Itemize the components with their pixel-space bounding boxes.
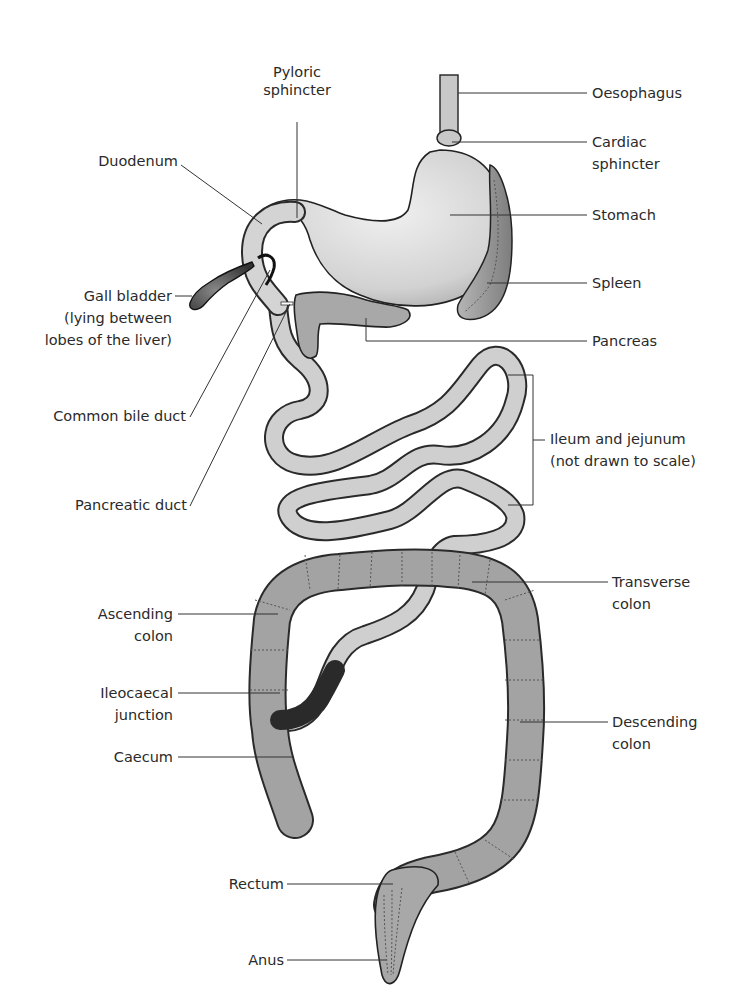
small-intestine <box>274 305 517 722</box>
label-stomach: Stomach <box>592 207 656 223</box>
label-caecum: Caecum <box>114 749 173 765</box>
label-duodenum: Duodenum <box>98 153 178 169</box>
label-cardiac-sphincter: Cardiacsphincter <box>592 134 660 172</box>
label-pyloric-sphincter: Pyloricsphincter <box>263 64 331 98</box>
label-ileocaecal-junction: Ileocaecaljunction <box>100 685 173 723</box>
label-ascending-colon: Ascendingcolon <box>98 606 173 644</box>
label-gall-bladder: Gall bladder(lying betweenlobes of the l… <box>45 288 172 348</box>
cardiac-sphincter-shape <box>437 130 461 146</box>
label-oesophagus: Oesophagus <box>592 85 682 101</box>
label-descending-colon: Descendingcolon <box>612 714 697 752</box>
label-pancreatic-duct: Pancreatic duct <box>75 497 187 513</box>
oesophagus-shape <box>440 75 458 135</box>
label-anus: Anus <box>248 952 284 968</box>
stomach-shape <box>250 150 501 306</box>
label-ileum-jejunum: Ileum and jejunum(not drawn to scale) <box>550 431 696 469</box>
digestive-system-diagram: Pyloricsphincter Oesophagus Cardiacsphin… <box>0 0 746 1002</box>
label-rectum: Rectum <box>229 876 284 892</box>
label-common-bile-duct: Common bile duct <box>53 408 186 424</box>
label-spleen: Spleen <box>592 275 641 291</box>
label-transverse-colon: Transversecolon <box>611 574 690 612</box>
label-pancreas: Pancreas <box>592 333 657 349</box>
gall-bladder-shape <box>190 262 254 310</box>
